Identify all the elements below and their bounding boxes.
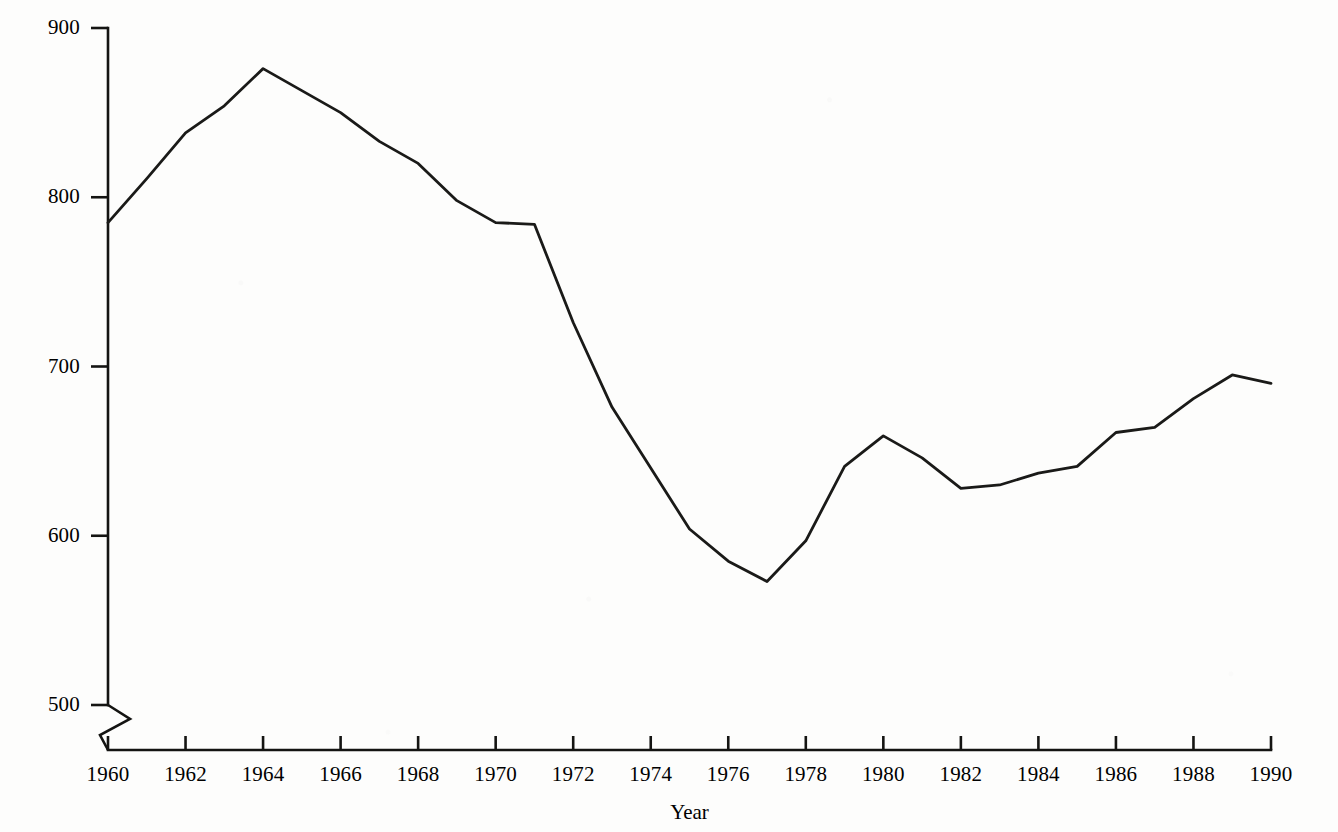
x-axis-tick-label: 1966 (319, 762, 362, 787)
chart-figure: 500600700800900 196019621964196619681970… (0, 0, 1338, 832)
x-axis-tick-label: 1970 (474, 762, 517, 787)
x-axis-tick-label: 1962 (164, 762, 207, 787)
x-axis-tick-label: 1990 (1250, 762, 1293, 787)
x-axis-tick-label: 1984 (1017, 762, 1060, 787)
y-axis-ticks (91, 28, 108, 705)
x-axis-group (108, 736, 1271, 750)
x-axis-tick-label: 1972 (552, 762, 595, 787)
y-axis-tick-label: 600 (48, 523, 80, 548)
x-axis-tick-label: 1968 (397, 762, 440, 787)
y-axis-tick-label: 500 (48, 692, 80, 717)
y-axis-tick-label: 700 (48, 354, 80, 379)
data-series-line (108, 69, 1271, 582)
x-axis-tick-label: 1960 (87, 762, 130, 787)
y-axis-tick-label: 800 (48, 184, 80, 209)
x-axis-tick-label: 1986 (1095, 762, 1138, 787)
x-axis-title: Year (670, 800, 709, 825)
y-axis-tick-label: 900 (48, 15, 80, 40)
x-axis-tick-label: 1964 (242, 762, 285, 787)
x-axis-ticks (108, 736, 1271, 750)
x-axis-tick-label: 1980 (862, 762, 905, 787)
x-axis-tick-label: 1978 (784, 762, 827, 787)
y-axis-group (91, 28, 130, 750)
x-axis-tick-label: 1982 (939, 762, 982, 787)
y-axis-break-zigzag (100, 705, 130, 750)
line-chart-plot (0, 0, 1338, 832)
x-axis-tick-label: 1976 (707, 762, 750, 787)
x-axis-tick-label: 1974 (629, 762, 672, 787)
x-axis-tick-label: 1988 (1172, 762, 1215, 787)
y-axis-title: Live births (thousands) (6, 230, 40, 590)
